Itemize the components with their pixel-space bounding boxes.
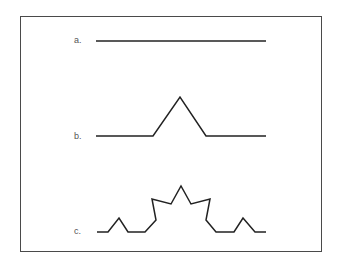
koch-curves [0,0,338,263]
curve-c-second-iteration [97,186,266,232]
curve-b-first-iteration [96,97,266,136]
diagram-canvas: a. b. c. [0,0,338,263]
